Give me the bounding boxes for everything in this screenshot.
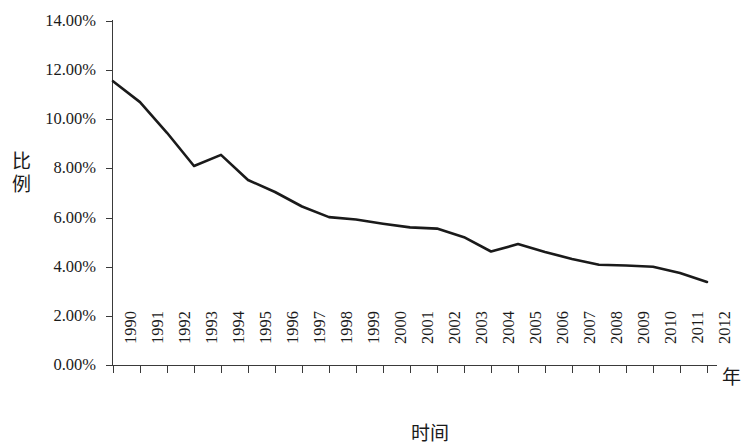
y-axis-tick-mark bbox=[106, 70, 113, 71]
x-axis-tick-label: 1990 bbox=[122, 311, 140, 377]
x-axis-tick-mark bbox=[599, 366, 600, 373]
y-axis-tick-mark bbox=[106, 168, 113, 169]
y-axis-tick-mark bbox=[106, 365, 113, 366]
x-axis-tick-mark bbox=[626, 366, 627, 373]
x-axis-tick-label: 2007 bbox=[581, 311, 599, 377]
x-axis-tick-mark bbox=[680, 366, 681, 373]
x-axis-tick-mark bbox=[707, 366, 708, 373]
x-axis-tick-mark bbox=[329, 366, 330, 373]
x-axis-tick-mark bbox=[248, 366, 249, 373]
line-chart: 比例 14.00%12.00%10.00%8.00%6.00%4.00%2.00… bbox=[0, 0, 748, 448]
x-axis-tick-label: 2004 bbox=[500, 311, 518, 377]
x-axis-tick-mark bbox=[572, 366, 573, 373]
x-axis-tick-label-group: 1990199119921993199419951996199719981999… bbox=[0, 0, 748, 448]
y-axis-tick-mark bbox=[106, 316, 113, 317]
x-axis-tick-label: 1991 bbox=[149, 311, 167, 377]
x-axis-tick-label: 1996 bbox=[284, 311, 302, 377]
x-axis-tick-mark bbox=[140, 366, 141, 373]
x-axis-tick-label: 1995 bbox=[257, 311, 275, 377]
y-axis-tick-mark bbox=[106, 21, 113, 22]
x-axis-tick-label: 1997 bbox=[311, 311, 329, 377]
x-axis-tick-label: 1999 bbox=[365, 311, 383, 377]
x-axis-tick-mark bbox=[383, 366, 384, 373]
x-axis-tick-label: 2000 bbox=[392, 311, 410, 377]
x-axis-unit-label: 年 bbox=[722, 368, 741, 387]
y-axis-tick-mark bbox=[106, 267, 113, 268]
x-axis-tick-label: 2003 bbox=[473, 311, 491, 377]
x-axis-tick-label: 2005 bbox=[527, 311, 545, 377]
x-axis-tick-label: 1993 bbox=[203, 311, 221, 377]
x-axis-tick-mark bbox=[194, 366, 195, 373]
x-axis-tick-mark bbox=[167, 366, 168, 373]
x-axis-tick-mark bbox=[302, 366, 303, 373]
x-axis-tick-label: 2010 bbox=[662, 311, 680, 377]
x-axis-tick-mark bbox=[437, 366, 438, 373]
x-axis-tick-mark bbox=[464, 366, 465, 373]
y-axis-tick-mark bbox=[106, 119, 113, 120]
x-axis-tick-label: 2006 bbox=[554, 311, 572, 377]
x-axis-tick-mark bbox=[491, 366, 492, 373]
x-axis-tick-label: 1998 bbox=[338, 311, 356, 377]
x-axis-tick-mark bbox=[113, 366, 114, 373]
x-axis-tick-label: 2002 bbox=[446, 311, 464, 377]
y-axis-tick-mark bbox=[106, 218, 113, 219]
x-axis-tick-label: 2011 bbox=[689, 311, 707, 377]
x-axis-tick-mark bbox=[653, 366, 654, 373]
x-axis-tick-label: 2009 bbox=[635, 311, 653, 377]
x-axis-tick-label: 1994 bbox=[230, 311, 248, 377]
x-axis-tick-label: 2008 bbox=[608, 311, 626, 377]
x-axis-tick-mark bbox=[221, 366, 222, 373]
x-axis-tick-label: 2001 bbox=[419, 311, 437, 377]
x-axis-tick-mark bbox=[356, 366, 357, 373]
x-axis-tick-label: 1992 bbox=[176, 311, 194, 377]
x-axis-tick-mark bbox=[410, 366, 411, 373]
x-axis-tick-mark bbox=[545, 366, 546, 373]
x-axis-tick-mark bbox=[518, 366, 519, 373]
x-axis-tick-mark bbox=[275, 366, 276, 373]
x-axis-title: 时间 bbox=[0, 423, 748, 444]
